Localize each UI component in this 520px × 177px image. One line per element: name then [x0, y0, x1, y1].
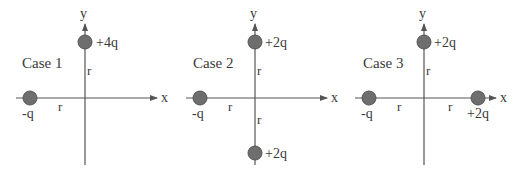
y-axis-label: y — [80, 6, 87, 21]
distance-label: r — [257, 63, 262, 78]
case-title: Case 3 — [363, 55, 403, 71]
charge-label: +2q — [265, 146, 287, 161]
x-axis-label: x — [331, 90, 338, 105]
distance-label: r — [426, 63, 431, 78]
charge-label: +2q — [265, 35, 287, 50]
charge-circle — [471, 91, 485, 105]
charge-diagram: x y Case 1 -q +4q r r x y Case 2 -q +2q … — [0, 0, 520, 177]
distance-label: r — [397, 99, 402, 114]
distance-label: r — [257, 112, 262, 127]
distance-label: r — [228, 99, 233, 114]
distance-label: r — [58, 99, 63, 114]
y-axis-label: y — [419, 6, 426, 21]
charge-circle — [362, 91, 376, 105]
case-title: Case 1 — [22, 55, 62, 71]
charge-label: +2q — [434, 35, 456, 50]
charge-label: +2q — [467, 106, 489, 121]
charge-circle — [23, 91, 37, 105]
charge-circle — [417, 35, 431, 49]
distance-label: r — [448, 99, 453, 114]
case-2-panel: x y Case 2 -q +2q +2q r r r — [186, 6, 338, 165]
charge-circle — [248, 35, 262, 49]
case-3-panel: x y Case 3 -q +2q +2q r r r — [355, 6, 507, 165]
charge-label: -q — [22, 106, 34, 121]
charge-circle — [193, 91, 207, 105]
case-1-panel: x y Case 1 -q +4q r r — [16, 6, 168, 165]
case-title: Case 2 — [193, 55, 233, 71]
charge-label: -q — [192, 106, 204, 121]
charge-label: +4q — [96, 35, 118, 50]
y-axis-label: y — [250, 6, 257, 21]
charge-circle — [78, 35, 92, 49]
charge-label: -q — [361, 106, 373, 121]
distance-label: r — [87, 63, 92, 78]
x-axis-label: x — [161, 90, 168, 105]
charge-circle — [248, 146, 262, 160]
x-axis-label: x — [500, 90, 507, 105]
